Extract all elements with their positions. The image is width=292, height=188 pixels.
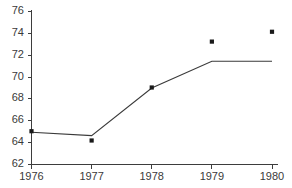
x-tick-label: 1980 (255, 171, 289, 182)
x-tick-label: 1976 (15, 171, 49, 182)
y-tick-label: 66 (2, 114, 24, 125)
x-tick-label: 1979 (195, 171, 229, 182)
y-tick-label: 72 (2, 49, 24, 60)
y-tick-label: 74 (2, 27, 24, 38)
y-tick-label: 64 (2, 136, 24, 147)
series-marker-group (29, 30, 274, 143)
data-point-marker (210, 40, 214, 44)
data-point-marker (29, 129, 33, 133)
y-tick-marks (28, 12, 32, 165)
plot-area (0, 0, 292, 188)
y-tick-label: 62 (2, 158, 24, 169)
data-point-marker (270, 30, 274, 34)
series-line-fitted (32, 61, 273, 135)
series-line-group (32, 61, 273, 135)
line-chart: 6264666870727476 19761977197819791980 (0, 0, 292, 188)
y-tick-label: 76 (2, 5, 24, 16)
data-point-marker (90, 138, 94, 142)
y-tick-label: 68 (2, 92, 24, 103)
x-tick-marks (32, 165, 273, 169)
x-tick-label: 1977 (75, 171, 109, 182)
y-tick-label: 70 (2, 71, 24, 82)
x-tick-label: 1978 (135, 171, 169, 182)
data-point-marker (150, 85, 154, 89)
